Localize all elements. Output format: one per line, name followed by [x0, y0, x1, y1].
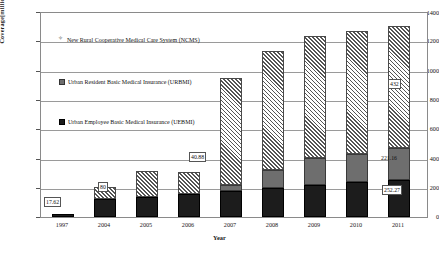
- x-tick-label-2004: 2004: [82, 221, 126, 228]
- bar-segment-uebmi: [346, 182, 368, 217]
- bar-segment-uebmi: [262, 188, 284, 217]
- bar-group-2007: [220, 78, 242, 217]
- value-label-2004: 80: [98, 182, 108, 192]
- bar-segment-uebmi: [220, 191, 242, 217]
- value-label-2011-ncms: 432: [388, 79, 401, 89]
- x-axis-title: Year: [0, 234, 439, 241]
- diamond-marker-icon: [59, 38, 64, 43]
- black-square-icon: [59, 119, 65, 125]
- chart-container: Coverage[million] 1400 1200 1000 800 600…: [0, 0, 439, 253]
- bar-segment-uebmi: [304, 185, 326, 217]
- legend-item-ncms: New Rural Cooperative Medical Care Syste…: [59, 37, 200, 43]
- bar-segment-urbmi: [388, 148, 410, 180]
- bar-group-2010: [346, 31, 368, 217]
- plot-area: 17.62 80 40.88 432 221.16 252.27 New Rur…: [40, 12, 428, 218]
- bar-segment-ncms: [136, 171, 158, 197]
- y-axis-title: Coverage[million]: [0, 0, 5, 78]
- bar-group-2005: [136, 171, 158, 217]
- bar-segment-ncms: [220, 78, 242, 185]
- x-tick-label-1997: 1997: [40, 221, 84, 228]
- bar-segment-urbmi: [262, 170, 284, 187]
- bar-segment-uebmi: [178, 194, 200, 217]
- bar-segment-ncms: [346, 31, 368, 153]
- gridline-1000: [41, 72, 427, 73]
- x-tick-label-2009: 2009: [292, 221, 336, 228]
- legend-label-uebmi: Urban Employee Basic Medical Insurance (…: [68, 119, 194, 125]
- bar-segment-uebmi: [52, 214, 74, 217]
- bar-segment-uebmi: [136, 197, 158, 217]
- value-label-2007: 40.88: [189, 152, 206, 162]
- legend-item-urbmi: Urban Resident Basic Medical Insurance (…: [59, 79, 191, 86]
- bar-segment-ncms: [178, 172, 200, 194]
- bar-group-2009: [304, 36, 326, 217]
- x-tick-label-2011: 2011: [376, 221, 420, 228]
- gray-square-icon: [59, 79, 65, 85]
- bar-segment-ncms: [262, 51, 284, 170]
- bar-group-2008: [262, 51, 284, 217]
- bar-segment-urbmi: [304, 158, 326, 185]
- x-tick-label-2006: 2006: [166, 221, 210, 228]
- x-tick-label-2005: 2005: [124, 221, 168, 228]
- bar-group-2006: [178, 172, 200, 217]
- bar-group-1997: [52, 214, 74, 217]
- value-label-1997: 17.62: [44, 197, 61, 207]
- value-label-2011-urbmi: 221.16: [380, 154, 398, 162]
- x-tick-label-2010: 2010: [334, 221, 378, 228]
- x-tick-label-2007: 2007: [208, 221, 252, 228]
- legend-label-urbmi: Urban Resident Basic Medical Insurance (…: [68, 79, 191, 85]
- bar-segment-ncms: [304, 36, 326, 158]
- legend-label-ncms: New Rural Cooperative Medical Care Syste…: [67, 37, 200, 43]
- bar-segment-urbmi: [346, 154, 368, 183]
- x-tick-label-2008: 2008: [250, 221, 294, 228]
- legend-item-uebmi: Urban Employee Basic Medical Insurance (…: [59, 119, 194, 126]
- bar-segment-uebmi: [94, 199, 116, 217]
- value-label-2011-uebmi: 252.27: [382, 185, 402, 195]
